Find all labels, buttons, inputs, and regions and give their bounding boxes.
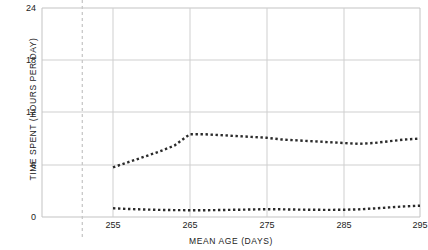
grid-lines (42, 8, 420, 217)
plot-area (0, 0, 428, 250)
chart-figure: TIME SPENT (HOURS PER DAY) 24 18 12 6 0 … (0, 0, 428, 250)
